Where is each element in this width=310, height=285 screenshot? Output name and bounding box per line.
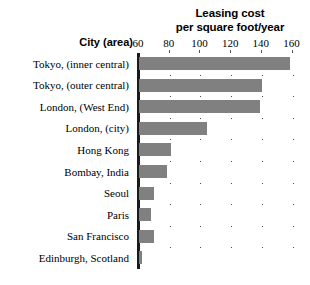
bar-tokyo-inner-central <box>139 57 290 70</box>
bar-row <box>139 118 309 140</box>
y-axis-category-labels: Tokyo, (inner central)Tokyo, (outer cent… <box>0 53 133 269</box>
chart-title-line-1: Leasing cost <box>152 7 308 21</box>
bar-series <box>139 53 309 269</box>
bar-hong-kong <box>139 143 171 156</box>
category-label: Seoul <box>0 187 129 199</box>
x-axis-tick-labels: 6080100120140160 <box>0 37 310 51</box>
chart-title-line-2: per square foot/year <box>152 21 308 35</box>
bar-tokyo-outer-central <box>139 79 262 92</box>
bar-london-west-end <box>139 100 260 113</box>
category-label: Edinburgh, Scotland <box>0 252 129 264</box>
bar-paris <box>139 208 151 221</box>
bar-row <box>139 247 309 269</box>
bar-edinburgh-scotland <box>139 251 142 264</box>
category-label: San Francisco <box>0 230 129 242</box>
x-tick-label-160: 160 <box>272 37 310 49</box>
bar-row <box>139 53 309 75</box>
bar-row <box>139 75 309 97</box>
bar-san-francisco <box>139 230 154 243</box>
bar-row <box>139 161 309 183</box>
bar-row <box>139 139 309 161</box>
category-label: Tokyo, (inner central) <box>0 58 129 70</box>
bar-seoul <box>139 187 154 200</box>
plot-area <box>137 53 309 271</box>
category-label: Tokyo, (outer central) <box>0 79 129 91</box>
bar-row <box>139 183 309 205</box>
bar-row <box>139 226 309 248</box>
bar-row <box>139 204 309 226</box>
category-label: London, (city) <box>0 122 129 134</box>
category-label: Hong Kong <box>0 144 129 156</box>
bar-bombay-india <box>139 165 167 178</box>
category-label: London, (West End) <box>0 101 129 113</box>
category-label: Paris <box>0 209 129 221</box>
bar-chart: Leasing cost per square foot/year City (… <box>0 0 310 285</box>
category-label: Bombay, India <box>0 166 129 178</box>
bar-row <box>139 96 309 118</box>
bar-london-city <box>139 122 207 135</box>
chart-title: Leasing cost per square foot/year <box>152 7 308 34</box>
